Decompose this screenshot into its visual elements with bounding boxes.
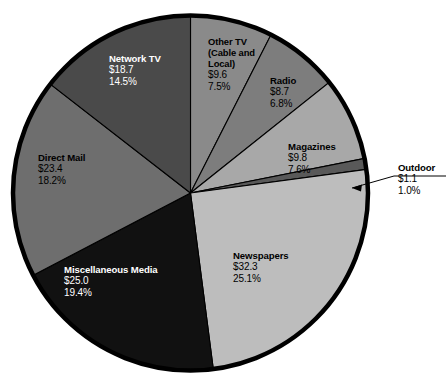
pie-chart-canvas bbox=[0, 0, 446, 388]
pie-slice-newspapers bbox=[191, 169, 368, 369]
pie-chart: Network TV $18.7 14.5% Other TV (Cable a… bbox=[0, 0, 446, 388]
